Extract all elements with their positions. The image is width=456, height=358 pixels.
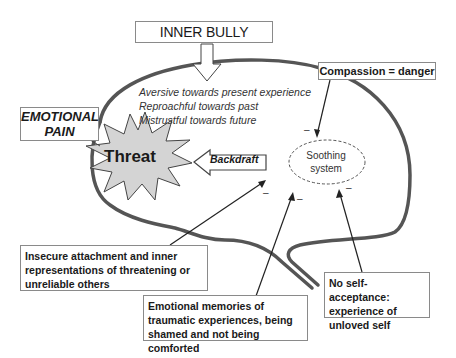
minus-sign-insecure: – [263,187,269,198]
minus-sign-self: – [346,182,352,193]
inner-bully-box: INNER BULLY [135,21,273,43]
compassion-danger-box: Compassion = danger [318,62,436,80]
compassion-arrow-line [317,80,330,135]
minus-sign-memories: – [297,193,303,204]
trait-present: Aversive towards present experience [139,85,311,99]
no-self-acceptance-box: No self-acceptance: experience of unlove… [324,272,430,318]
soothing-system-label: Soothing system [296,149,356,175]
soothing-line2: system [296,162,356,175]
backdraft-label: Backdraft [210,153,258,165]
emotional-pain-line2: PAIN [21,124,98,139]
soothing-line1: Soothing [296,149,356,162]
trait-future: Mistrustful towards future [139,113,311,127]
memories-arrowhead [288,192,295,201]
emotional-pain-line1: EMOTIONAL [21,109,98,124]
inner-bully-traits: Aversive towards present experience Repr… [139,85,311,127]
minus-sign-compassion: – [304,124,310,135]
insecure-attachment-box: Insecure attachment and inner representa… [20,245,208,291]
threat-label: Threat [104,147,156,167]
self-acceptance-arrow-line [340,194,362,272]
emotional-memories-box: Emotional memories of traumatic experien… [143,295,308,341]
self-acceptance-arrowhead [336,189,343,198]
emotional-pain-box: EMOTIONAL PAIN [20,107,99,141]
insecure-arrow-line [170,183,262,245]
compassion-arrowhead [314,129,320,138]
trait-past: Reproachful towards past [139,99,311,113]
